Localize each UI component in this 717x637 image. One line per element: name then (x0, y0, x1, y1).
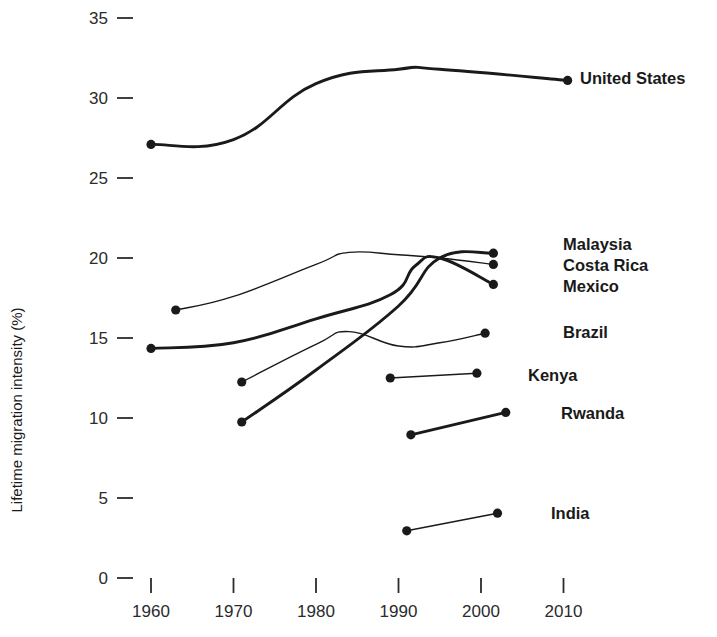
y-tick-label: 25 (89, 169, 108, 188)
y-tick-label: 5 (99, 489, 108, 508)
end-point-brazil (481, 329, 490, 338)
y-tick-label: 20 (89, 249, 108, 268)
series-label-rwanda: Rwanda (561, 404, 625, 422)
line-chart: 05101520253035 196019701980199020002010 … (0, 0, 717, 637)
series-label-malaysia: Malaysia (563, 235, 633, 253)
end-point-rwanda (501, 408, 510, 417)
y-tick-label: 35 (89, 9, 108, 28)
series-label-kenya: Kenya (528, 366, 578, 384)
y-axis-title: Lifetime migration intensity (%) (8, 307, 25, 512)
start-point-united-states (146, 140, 155, 149)
start-point-india (402, 526, 411, 535)
start-point-brazil (237, 377, 246, 386)
x-tick-label: 1970 (215, 602, 253, 621)
end-point-malaysia (489, 249, 498, 258)
x-tick-label: 1980 (297, 602, 335, 621)
end-point-kenya (472, 369, 481, 378)
series-label-mexico: Mexico (563, 277, 619, 295)
y-tick-label: 10 (89, 409, 108, 428)
start-point-kenya (386, 373, 395, 382)
series-label-united-states: United States (580, 69, 685, 87)
y-tick-label: 0 (99, 569, 108, 588)
x-tick-label: 1960 (132, 602, 170, 621)
end-point-mexico (489, 280, 498, 289)
x-tick-label: 2000 (462, 602, 500, 621)
series-label-india: India (551, 504, 590, 522)
end-point-india (493, 509, 502, 518)
end-point-costa-rica (489, 260, 498, 269)
y-tick-label: 15 (89, 329, 108, 348)
end-point-united-states (563, 76, 572, 85)
series-label-brazil: Brazil (563, 323, 608, 341)
x-tick-label: 1990 (380, 602, 418, 621)
start-point-mexico (146, 344, 155, 353)
start-point-rwanda (406, 430, 415, 439)
x-tick-label: 2010 (545, 602, 583, 621)
chart-figure: 05101520253035 196019701980199020002010 … (0, 0, 717, 637)
start-point-costa-rica (171, 305, 180, 314)
start-point-malaysia (237, 417, 246, 426)
y-tick-label: 30 (89, 89, 108, 108)
series-label-costa-rica: Costa Rica (563, 256, 649, 274)
